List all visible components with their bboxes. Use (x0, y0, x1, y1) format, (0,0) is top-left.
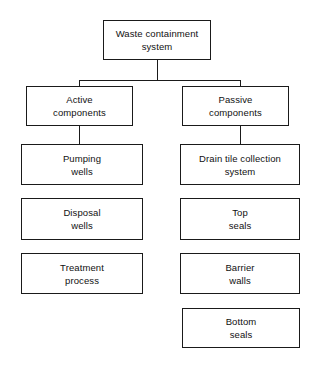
node-label: Activecomponents (30, 93, 129, 119)
connector-split-bar (79, 80, 241, 81)
node-label: Pumpingwells (25, 152, 139, 178)
node-label: Passivecomponents (186, 93, 285, 119)
node-pumping-wells[interactable]: Pumpingwells (21, 144, 143, 185)
node-label: Barrierwalls (184, 261, 296, 287)
node-waste-containment-system[interactable]: Waste containmentsystem (103, 20, 211, 60)
node-label: Disposalwells (25, 206, 139, 232)
node-active-components[interactable]: Activecomponents (26, 86, 133, 126)
connector-root-stem (157, 60, 158, 80)
node-label: Bottomseals (186, 315, 296, 341)
node-label: Topseals (184, 206, 296, 232)
node-top-seals[interactable]: Topseals (180, 198, 300, 240)
connector-active-to-pumping-wells (79, 126, 80, 144)
node-disposal-wells[interactable]: Disposalwells (21, 198, 143, 240)
diagram-canvas: Waste containmentsystem Activecomponents… (0, 0, 323, 366)
node-label: Waste containmentsystem (107, 27, 207, 53)
node-passive-components[interactable]: Passivecomponents (182, 86, 289, 126)
node-barrier-walls[interactable]: Barrierwalls (180, 253, 300, 294)
node-bottom-seals[interactable]: Bottomseals (182, 308, 300, 348)
node-label: Treatmentprocess (25, 261, 139, 287)
connector-passive-to-drain-tile (240, 126, 241, 144)
node-drain-tile-collection-system[interactable]: Drain tile collectionsystem (180, 144, 300, 185)
node-label: Drain tile collectionsystem (184, 152, 296, 178)
node-treatment-process[interactable]: Treatmentprocess (21, 253, 143, 294)
